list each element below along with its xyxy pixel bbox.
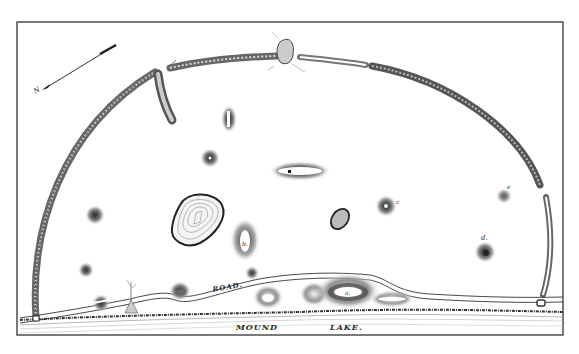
small-mound-b2 <box>246 267 258 279</box>
gateway-mound <box>268 32 305 72</box>
mound-e-letter: e <box>507 183 511 190</box>
mound-road-west <box>93 295 109 311</box>
oblong-mound-north <box>222 106 236 132</box>
enclosure-wall <box>35 56 550 318</box>
mound-c: c <box>376 196 400 216</box>
platform-mound <box>172 194 224 245</box>
mound-west-2 <box>79 263 93 277</box>
mound-d-letter: d. <box>481 234 488 242</box>
shore-structure-west <box>33 316 39 321</box>
tree-marker <box>125 280 138 313</box>
mound-d: d. <box>475 234 495 262</box>
mound-a-letter: a. <box>345 289 351 296</box>
mound-west-1 <box>86 206 104 224</box>
mound-road-mid <box>170 282 190 300</box>
lake-shore <box>20 310 563 333</box>
long-oval-mound <box>270 162 330 180</box>
lake-label: LAKE. <box>329 322 363 332</box>
shore-structure-east <box>537 300 545 306</box>
earthwork-map: N <box>0 0 579 354</box>
north-arrow: N <box>31 45 116 96</box>
mound-b: b. <box>231 219 259 261</box>
mound-e: e <box>497 183 511 203</box>
mound-label: MOUND <box>235 322 278 332</box>
north-label: N <box>31 85 42 96</box>
mound-b-letter: b. <box>242 240 248 247</box>
mound-c-letter: c <box>396 198 400 205</box>
dark-oval-mound <box>327 205 353 232</box>
mound-a-group: a. <box>253 273 414 309</box>
